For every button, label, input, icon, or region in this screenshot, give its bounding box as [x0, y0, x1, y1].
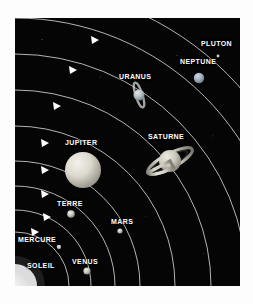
arrow-saturne — [53, 102, 61, 110]
arrow-mercure — [31, 228, 39, 236]
planet-mars — [117, 228, 122, 233]
arrow-jupiter — [41, 139, 49, 147]
planet-jupiter — [65, 152, 101, 188]
label-uranus: URANUS — [119, 73, 151, 80]
label-neptune: NEPTUNE — [180, 58, 216, 65]
arrow-uranus — [69, 66, 77, 74]
arrow-neptune — [91, 36, 99, 44]
planet-pluton — [217, 55, 220, 58]
planet-saturne — [145, 143, 196, 179]
planet-terre — [67, 210, 75, 218]
sun-body — [15, 256, 45, 286]
label-terre: TERRE — [57, 200, 83, 207]
orbit-saturne — [15, 90, 211, 286]
planet-uranus — [132, 82, 147, 109]
label-mars: MARS — [111, 218, 133, 225]
label-mercure: MERCURE — [18, 236, 56, 243]
space-scene: SOLEIL MERCURE VENUS TERRE MARS JUPITER … — [15, 18, 240, 286]
arrow-mars — [41, 166, 49, 174]
label-saturne: SATURNE — [148, 133, 184, 140]
arrow-venus — [43, 213, 51, 221]
solar-system-figure: SOLEIL MERCURE VENUS TERRE MARS JUPITER … — [0, 0, 253, 304]
planet-neptune — [194, 73, 204, 83]
label-jupiter: JUPITER — [65, 139, 97, 146]
label-pluton: PLUTON — [201, 40, 232, 47]
label-venus: VENUS — [72, 258, 98, 265]
planet-mercure — [57, 245, 61, 249]
planet-venus — [83, 267, 90, 274]
label-soleil: SOLEIL — [27, 262, 55, 269]
